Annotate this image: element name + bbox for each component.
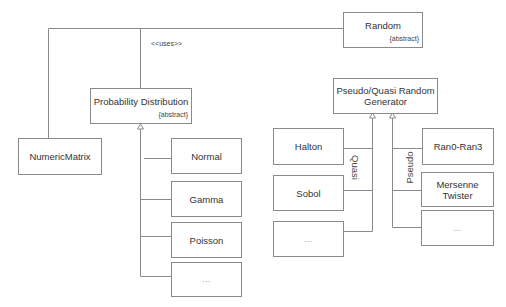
- uses-stereotype-label: <<uses>>: [151, 40, 182, 47]
- class-normal[interactable]: Normal: [171, 138, 242, 174]
- class-random-generator[interactable]: Pseudo/Quasi Random Generator: [333, 78, 438, 114]
- class-name: Probability Distribution: [94, 96, 189, 107]
- class-mersenne-twister[interactable]: Mersenne Twister: [421, 172, 494, 207]
- class-name: Halton: [295, 141, 322, 152]
- class-quasi-more[interactable]: ...: [273, 221, 344, 257]
- class-name: Sobol: [296, 188, 320, 199]
- ellipsis: ...: [202, 274, 210, 285]
- class-poisson[interactable]: Poisson: [171, 222, 242, 258]
- class-halton[interactable]: Halton: [273, 128, 344, 165]
- pseudo-group-label: Pseudo: [404, 151, 415, 183]
- quasi-group-label: Quasi: [350, 155, 361, 180]
- class-ran0-ran3[interactable]: Ran0-Ran3: [422, 128, 494, 165]
- class-random[interactable]: Random {abstract}: [343, 12, 423, 48]
- class-sobol[interactable]: Sobol: [273, 175, 344, 211]
- class-probability-distribution[interactable]: Probability Distribution {abstract}: [90, 88, 192, 124]
- ellipsis: ...: [304, 234, 312, 245]
- class-name: Random: [365, 20, 401, 31]
- class-name: NumericMatrix: [29, 151, 90, 162]
- class-name-line-1: Pseudo/Quasi Random: [336, 85, 434, 96]
- class-name: Poisson: [190, 235, 224, 246]
- class-numeric-matrix[interactable]: NumericMatrix: [18, 138, 102, 175]
- class-name: Normal: [191, 151, 222, 162]
- class-name-line-2: Twister: [442, 190, 472, 201]
- uml-diagram: <<uses>> Random {abstract} Probability D…: [0, 0, 506, 307]
- class-name: Ran0-Ran3: [434, 141, 483, 152]
- class-distribution-more[interactable]: ...: [171, 262, 242, 297]
- abstract-stereotype: {abstract}: [158, 109, 188, 120]
- abstract-stereotype: {abstract}: [389, 33, 419, 44]
- ellipsis: ...: [453, 223, 461, 234]
- class-name-line-2: Generator: [364, 96, 407, 107]
- class-gamma[interactable]: Gamma: [171, 181, 242, 217]
- class-pseudo-more[interactable]: ...: [421, 210, 494, 246]
- inheritance-arrowhead-distribution: [138, 124, 144, 129]
- class-name: Gamma: [190, 194, 224, 205]
- class-name-line-1: Mersenne: [436, 179, 478, 190]
